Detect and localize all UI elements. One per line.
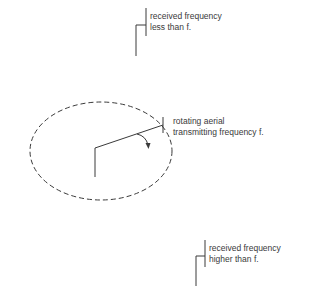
aerial-label-line-2: transmitting frequency f. bbox=[173, 127, 264, 138]
top-label-line-2: less than f. bbox=[150, 22, 222, 33]
rotation-arrow-icon bbox=[137, 134, 151, 149]
aerial-label-line-1: rotating aerial bbox=[173, 116, 264, 127]
bottom-label-line-2: higher than f. bbox=[209, 254, 281, 265]
bottom-label-line-1: received frequency bbox=[209, 243, 281, 254]
bottom-receiver-label: received frequency higher than f. bbox=[209, 243, 281, 265]
receiver-aerial-top-icon bbox=[136, 8, 146, 56]
rotating-aerial-icon bbox=[95, 117, 163, 177]
aerial-label: rotating aerial transmitting frequency f… bbox=[173, 116, 264, 138]
rotation-path-ellipse bbox=[30, 102, 172, 200]
top-label-line-1: received frequency bbox=[150, 11, 222, 22]
receiver-aerial-bottom-icon bbox=[196, 240, 205, 286]
top-receiver-label: received frequency less than f. bbox=[150, 11, 222, 33]
